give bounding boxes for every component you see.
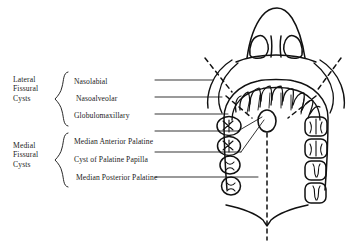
tooth-left-molar-2: [218, 137, 241, 156]
dash-nasolabial-right: [316, 58, 341, 92]
medial-group-brace: [55, 133, 68, 187]
tooth-left-premolar-2: [222, 177, 241, 195]
tooth-right-premolar-1: [305, 161, 326, 180]
figure-page: Lateral Fissural Cysts Medial Fissural C…: [0, 0, 346, 246]
tooth-right-molar-1: [305, 117, 327, 136]
tooth-right-molar-2: [305, 139, 327, 158]
nose-outline: [247, 8, 305, 58]
lateral-fissural-cysts-group-label: Lateral Fissural Cysts: [13, 75, 38, 103]
fissural-cyst-diagram: [0, 0, 346, 246]
label-globulomaxillary: Globulomaxillary: [74, 111, 130, 120]
label-median-anterior-palatine: Median Anterior Palatine: [74, 137, 153, 146]
incisive-papilla: [258, 110, 276, 132]
tooth-right-premolar-2: [305, 183, 326, 203]
tooth-left-premolar-1: [220, 156, 240, 174]
label-cyst-of-palatine-papilla: Cyst of Palatine Papilla: [74, 155, 148, 164]
label-nasolabial: Nasolabial: [74, 77, 107, 86]
label-nasoalveolar: Nasoalveolar: [76, 94, 117, 103]
lateral-group-brace: [55, 72, 68, 126]
anterior-teeth-separations: [247, 93, 304, 114]
leader-to-papilla-b: [241, 120, 264, 152]
columella: [271, 36, 281, 57]
medial-fissural-cysts-group-label: Medial Fissural Cysts: [13, 141, 38, 169]
tooth-left-molar-1: [217, 117, 241, 136]
label-median-posterior-palatine: Median Posterior Palatine: [76, 173, 157, 182]
leader-lines: [155, 80, 264, 177]
